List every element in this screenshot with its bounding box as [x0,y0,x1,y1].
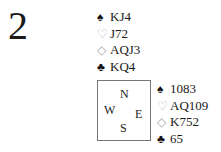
east-diamonds: ◇ K752 [157,114,208,131]
compass-east: E [135,107,142,122]
north-diamonds: ◇ AQJ3 [97,42,140,59]
diamond-icon: ◇ [97,42,110,59]
east-clubs: ♣ 65 [157,131,208,148]
east-clubs-cards: 65 [170,131,183,148]
east-hand: ♠ 1083 ♡ AQ109 ◇ K752 ♣ 65 [157,81,208,147]
east-spades: ♠ 1083 [157,81,208,98]
heart-icon: ♡ [97,26,110,43]
club-icon: ♣ [97,59,110,76]
east-diamonds-cards: K752 [170,114,199,131]
east-hearts-cards: AQ109 [170,98,208,115]
compass-north: N [120,87,129,102]
diamond-icon: ◇ [157,114,170,131]
north-hearts-cards: J72 [110,26,128,43]
spade-icon: ♠ [157,81,170,98]
heart-icon: ♡ [157,98,170,115]
east-hearts: ♡ AQ109 [157,98,208,115]
north-hand: ♠ KJ4 ♡ J72 ◇ AQJ3 ♣ KQ4 [97,9,140,75]
north-diamonds-cards: AQJ3 [110,42,140,59]
north-spades-cards: KJ4 [110,9,131,26]
north-clubs: ♣ KQ4 [97,59,140,76]
compass-west: W [104,103,115,118]
east-spades-cards: 1083 [170,81,196,98]
compass-south: S [120,121,127,136]
north-spades: ♠ KJ4 [97,9,140,26]
north-clubs-cards: KQ4 [110,59,135,76]
problem-number: 2 [8,6,28,46]
north-hearts: ♡ J72 [97,26,140,43]
compass-box: N W E S [97,80,151,141]
club-icon: ♣ [157,131,170,148]
spade-icon: ♠ [97,9,110,26]
